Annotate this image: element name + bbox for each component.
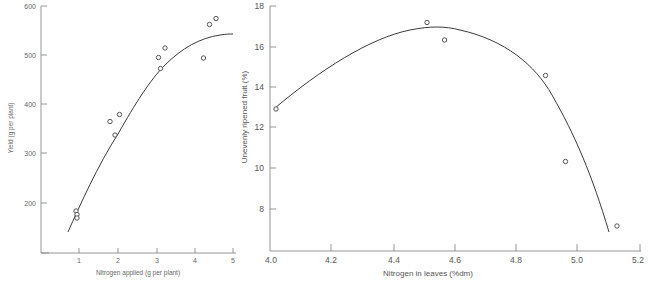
- y-tick-labels: 18 16 14 12 10 8: [255, 1, 265, 214]
- y-tick-label: 8: [259, 204, 264, 214]
- y-tick-label: 500: [24, 52, 36, 59]
- data-point: [108, 119, 112, 123]
- y-tick-label: 18: [255, 1, 265, 11]
- x-tick-label: 5.2: [632, 255, 644, 265]
- y-tick-label: 200: [24, 200, 36, 207]
- y-axis-title: Yield (g per plant): [7, 102, 15, 153]
- x-ticks: [331, 244, 640, 251]
- x-axis-title: Nitrogen in leaves (%dm): [383, 269, 473, 278]
- data-point: [201, 56, 205, 60]
- data-point: [158, 66, 162, 70]
- x-tick-label: 1: [77, 257, 81, 264]
- x-tick-label: 4.0: [265, 255, 277, 265]
- x-ticks: [79, 248, 233, 253]
- data-point: [75, 216, 79, 220]
- y-tick-label: 10: [255, 163, 265, 173]
- y-tick-label: 12: [255, 122, 265, 132]
- yield-chart: 600 500 400 300 200 1 2 3 4 5 Nitrogen a…: [7, 3, 236, 278]
- y-tick-labels: 600 500 400 300 200: [24, 3, 36, 207]
- x-tick-labels: 1 2 3 4 5: [77, 257, 235, 264]
- x-tick-label: 4.6: [449, 255, 461, 265]
- y-axis-title: Unevenly ripened fruit (%): [240, 70, 249, 163]
- y-tick-label: 300: [24, 150, 36, 157]
- x-tick-label: 5: [231, 257, 235, 264]
- data-point: [214, 16, 218, 20]
- x-tick-label: 4: [193, 257, 197, 264]
- data-point: [117, 112, 121, 116]
- data-point: [615, 224, 619, 228]
- data-point: [563, 159, 567, 163]
- data-point: [156, 55, 160, 59]
- x-tick-label: 2: [116, 257, 120, 264]
- data-point: [163, 46, 167, 50]
- figure: 600 500 400 300 200 1 2 3 4 5 Nitrogen a…: [0, 0, 648, 281]
- data-point: [543, 73, 547, 77]
- x-tick-label: 5.0: [571, 255, 583, 265]
- y-tick-label: 600: [24, 3, 36, 10]
- data-point: [207, 22, 211, 26]
- fit-curve: [68, 34, 233, 232]
- data-point: [113, 133, 117, 137]
- y-tick-label: 16: [255, 42, 265, 52]
- x-tick-label: 4.8: [510, 255, 522, 265]
- data-point: [274, 107, 278, 111]
- x-tick-label: 4.4: [388, 255, 400, 265]
- data-points: [74, 16, 218, 220]
- data-point: [442, 38, 446, 42]
- y-ticks: [41, 6, 49, 253]
- ripening-chart: 18 16 14 12 10 8 4.0 4.2 4.4 4.6 4.8 5.0…: [240, 1, 644, 278]
- y-tick-label: 400: [24, 101, 36, 108]
- data-point: [425, 20, 429, 24]
- x-axis-title: Nitrogen applied (g per plant): [96, 269, 180, 277]
- x-tick-labels: 4.0 4.2 4.4 4.6 4.8 5.0 5.2: [265, 255, 644, 265]
- x-tick-label: 3: [155, 257, 159, 264]
- x-tick-label: 4.2: [325, 255, 337, 265]
- fit-curve: [275, 27, 609, 232]
- y-tick-label: 14: [255, 82, 265, 92]
